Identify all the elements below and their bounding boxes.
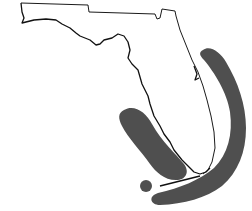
florida-outline: [21, 3, 215, 174]
florida-map: Florida: [0, 0, 252, 211]
gulf-west-zone: [119, 108, 187, 180]
atlantic-arc-zone: [151, 48, 246, 205]
florida-panhandle-coast: [21, 3, 210, 174]
map-canvas: [0, 0, 252, 211]
dry-tortugas-zone: [140, 180, 152, 192]
